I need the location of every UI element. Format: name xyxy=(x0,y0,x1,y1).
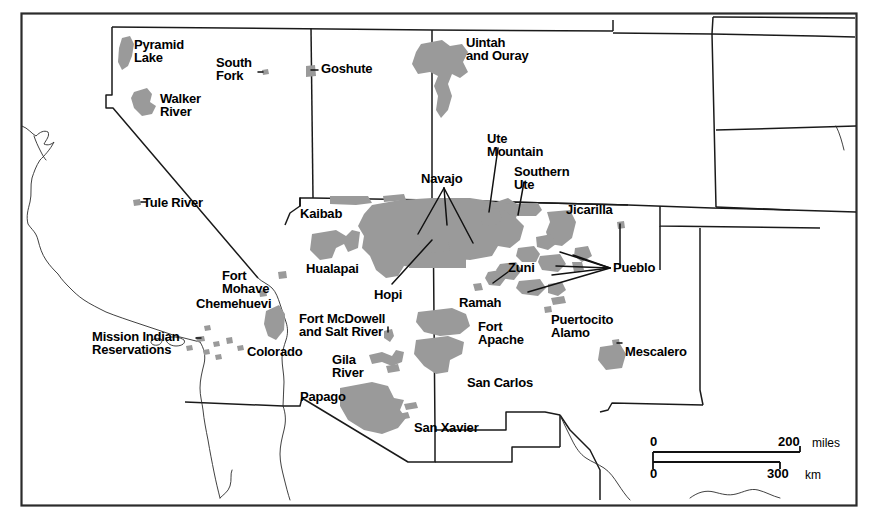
map-label-pyramid-lake: Pyramid Lake xyxy=(134,38,184,65)
map-label-san-xavier: San Xavier xyxy=(414,421,479,434)
map-label-pueblo: Pueblo xyxy=(613,261,655,274)
map-label-navajo: Navajo xyxy=(421,172,462,185)
map-label-jicarilla: Jicarilla xyxy=(566,203,613,216)
scale-km-unit: km xyxy=(805,468,821,482)
map-label-uintah-and-ouray: Uintah and Ouray xyxy=(466,36,529,63)
scale-km-max: 300 xyxy=(767,466,789,481)
map-label-ramah: Ramah xyxy=(459,296,501,309)
scale-miles-unit: miles xyxy=(812,436,840,450)
scale-miles-max: 200 xyxy=(778,434,800,449)
scale-km-zero: 0 xyxy=(650,466,657,481)
map-label-southern-ute: Southern Ute xyxy=(514,165,569,192)
map-label-walker-river: Walker River xyxy=(160,92,201,119)
map-label-mission-indian: Mission Indian Reservations xyxy=(92,330,179,357)
map-label-puertocito-alamo: Puertocito Alamo xyxy=(551,313,613,340)
scale-miles-zero: 0 xyxy=(650,434,657,449)
southwest-indian-reservations-map: Pyramid LakeSouth ForkGoshuteUintah and … xyxy=(0,0,870,523)
map-label-tule-river: Tule River xyxy=(143,196,203,209)
map-label-papago: Papago xyxy=(300,390,346,403)
map-label-zuni: Zuni xyxy=(508,261,535,274)
map-label-fort-mcdowell: Fort McDowell and Salt River xyxy=(299,312,385,339)
map-label-mescalero: Mescalero xyxy=(625,345,687,358)
map-label-san-carlos: San Carlos xyxy=(467,376,533,389)
map-label-goshute: Goshute xyxy=(321,62,372,75)
map-label-hopi: Hopi xyxy=(374,288,402,301)
map-label-chemehuevi: Chemehuevi xyxy=(196,297,271,310)
map-label-fort-apache: Fort Apache xyxy=(478,320,524,347)
map-label-kaibab: Kaibab xyxy=(300,207,342,220)
map-label-hualapai: Hualapai xyxy=(306,262,359,275)
map-label-gila-river: Gila River xyxy=(332,353,364,380)
map-label-south-fork: South Fork xyxy=(216,56,252,83)
map-label-colorado: Colorado xyxy=(247,345,302,358)
map-label-ute-mountain: Ute Mountain xyxy=(487,132,543,159)
map-canvas xyxy=(0,0,870,523)
map-label-fort-mohave: Fort Mohave xyxy=(222,269,269,296)
